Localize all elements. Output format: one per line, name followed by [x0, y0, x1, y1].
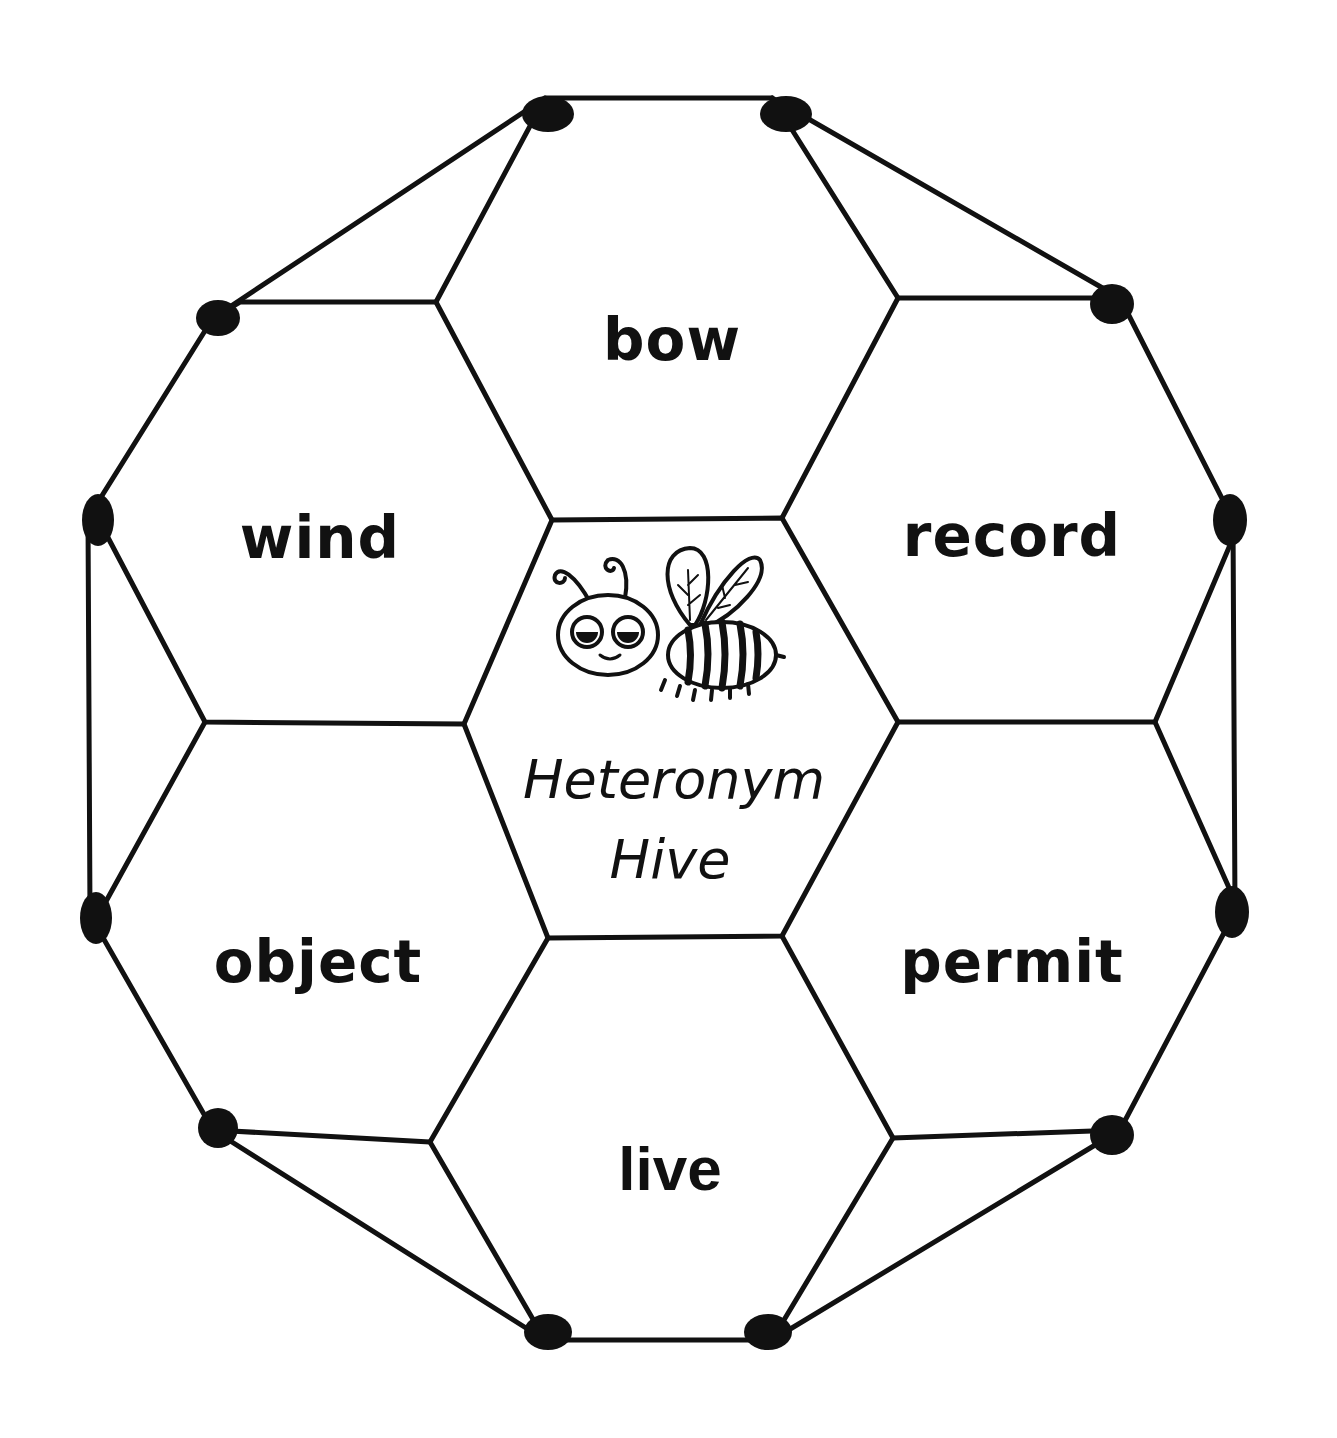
word-bottom: live	[618, 1134, 721, 1203]
word-upper-right: record	[903, 502, 1121, 570]
hex-upper-left-edges	[213, 302, 436, 318]
title-line-1: Heteronym	[523, 748, 825, 811]
hive-diagram: bow wind record object permit live Heter…	[0, 0, 1337, 1438]
heteronym-hive-worksheet: bow wind record object permit live Heter…	[0, 0, 1337, 1438]
bee-icon	[555, 548, 784, 700]
word-upper-left: wind	[240, 504, 400, 572]
word-top: bow	[603, 306, 741, 374]
word-lower-right: permit	[900, 928, 1124, 996]
title-line-2: Hive	[610, 828, 731, 891]
word-lower-left: object	[214, 928, 423, 996]
